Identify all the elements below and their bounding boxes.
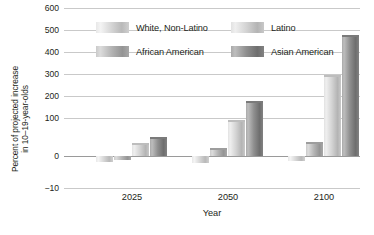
x-tick-label-2100: 2100 (314, 192, 334, 202)
x-axis-title: Year (64, 208, 360, 218)
bar-body (96, 156, 113, 162)
y-tick-label-0: 0 (54, 151, 59, 161)
legend-item-african-american: African American (96, 46, 204, 57)
bar-2025-asian-american (150, 139, 167, 156)
bar-body (132, 145, 149, 156)
y-tick-label-300: 300 (45, 69, 59, 79)
bar-2050-white-non-latino (192, 156, 209, 163)
bar-2050-asian-american (246, 103, 263, 156)
x-tick-label-2050: 2050 (218, 192, 238, 202)
legend-label-white-non-latino: White, Non-Latino (136, 23, 208, 33)
legend-label-african-american: African American (136, 47, 204, 57)
legend-label-asian-american: Asian American (271, 47, 333, 57)
bar-body (288, 156, 305, 161)
bar-body (342, 37, 359, 156)
bar-2025-latino (132, 145, 149, 156)
bar-body (228, 122, 245, 156)
x-axis-tick-labels: 2025 2050 2100 (64, 192, 360, 206)
bar-body (192, 156, 209, 163)
y-tick-label-600: 600 (45, 3, 59, 13)
bar-2025-white-non-latino (96, 156, 113, 162)
legend-swatch-icon-latino (231, 22, 264, 33)
legend-swatch-icon-african-american (96, 46, 129, 57)
bar-2100-african-american (306, 144, 323, 156)
bar-2025-african-american (114, 156, 131, 160)
bar-2050-latino (228, 122, 245, 156)
x-tick-label-2025: 2025 (122, 192, 142, 202)
legend-item-asian-american: Asian American (231, 46, 333, 57)
y-tick-label-100: 100 (45, 113, 59, 123)
y-tick-label-200: 200 (45, 91, 59, 101)
legend-label-latino: Latino (271, 23, 295, 33)
bar-body (306, 144, 323, 156)
chart-legend: White, Non-Latino Latino African America… (96, 22, 326, 66)
y-tick-label-400: 400 (45, 47, 59, 57)
y-axis-title: Percent of projected increase in 10–19-y… (10, 39, 38, 199)
legend-item-white-non-latino: White, Non-Latino (96, 22, 208, 33)
legend-swatch-icon-asian-american (231, 46, 264, 57)
gridline-minus10: −10 (64, 188, 360, 189)
bar-2100-asian-american (342, 37, 359, 156)
bar-chart-figure: Percent of projected increase in 10–19-y… (0, 0, 374, 235)
bar-2100-latino (324, 77, 341, 156)
bar-body (150, 139, 167, 156)
bar-body (114, 156, 131, 160)
bar-body (246, 103, 263, 156)
y-tick-label-500: 500 (45, 25, 59, 35)
bar-2050-african-american (210, 150, 227, 156)
bar-body (324, 77, 341, 156)
legend-item-latino: Latino (231, 22, 295, 33)
y-tick-label-minus10: −10 (44, 183, 59, 193)
legend-swatch-icon-white-non-latino (96, 22, 129, 33)
bar-2100-white-non-latino (288, 156, 305, 161)
bar-body (210, 150, 227, 156)
